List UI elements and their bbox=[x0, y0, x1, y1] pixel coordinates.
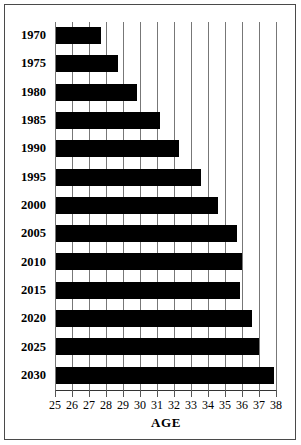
bar bbox=[55, 84, 137, 101]
y-axis-line bbox=[55, 22, 56, 390]
bar bbox=[55, 338, 259, 355]
y-axis-tick-label: 2030 bbox=[2, 369, 46, 382]
x-axis-tick-label: 38 bbox=[264, 398, 288, 412]
y-axis-tick-label: 2020 bbox=[2, 312, 46, 325]
bar bbox=[55, 197, 218, 214]
y-axis-tick-label: 1995 bbox=[2, 171, 46, 184]
x-axis-title: AGE bbox=[55, 415, 277, 431]
x-axis-tick bbox=[89, 390, 90, 397]
y-axis-tick-label: 2005 bbox=[2, 227, 46, 240]
x-axis-tick bbox=[225, 390, 226, 397]
x-axis-tick bbox=[72, 390, 73, 397]
y-axis-tick-label: 1980 bbox=[2, 86, 46, 99]
bar bbox=[55, 225, 237, 242]
bar bbox=[55, 310, 252, 327]
y-axis-tick-label: 1975 bbox=[2, 57, 46, 70]
bar bbox=[55, 367, 274, 384]
y-axis-tick-label: 1970 bbox=[2, 29, 46, 42]
x-axis-tick bbox=[106, 390, 107, 397]
y-axis-tick-label: 1985 bbox=[2, 114, 46, 127]
bar-chart-figure: 1970197519801985199019952000200520102015… bbox=[0, 0, 301, 445]
bar bbox=[55, 253, 242, 270]
bar bbox=[55, 27, 101, 44]
x-axis-tick bbox=[55, 390, 56, 397]
x-axis-tick bbox=[259, 390, 260, 397]
x-axis-tick bbox=[174, 390, 175, 397]
x-axis-tick bbox=[276, 390, 277, 397]
x-axis-tick bbox=[242, 390, 243, 397]
bar bbox=[55, 282, 240, 299]
gridline bbox=[276, 22, 277, 390]
bar bbox=[55, 112, 160, 129]
x-axis-tick bbox=[140, 390, 141, 397]
bars-layer bbox=[55, 22, 276, 390]
bar bbox=[55, 169, 201, 186]
x-axis-tick bbox=[208, 390, 209, 397]
y-axis-tick-label: 2025 bbox=[2, 341, 46, 354]
plot-area bbox=[55, 22, 276, 390]
x-axis-tick bbox=[123, 390, 124, 397]
y-axis-tick-label: 2000 bbox=[2, 199, 46, 212]
y-axis-tick-label: 2010 bbox=[2, 256, 46, 269]
y-axis-tick-label: 2015 bbox=[2, 284, 46, 297]
bar bbox=[55, 55, 118, 72]
x-axis-tick bbox=[157, 390, 158, 397]
y-axis-tick-labels: 1970197519801985199019952000200520102015… bbox=[4, 22, 51, 390]
y-axis-tick-label: 1990 bbox=[2, 142, 46, 155]
x-axis-tick bbox=[191, 390, 192, 397]
bar bbox=[55, 140, 179, 157]
